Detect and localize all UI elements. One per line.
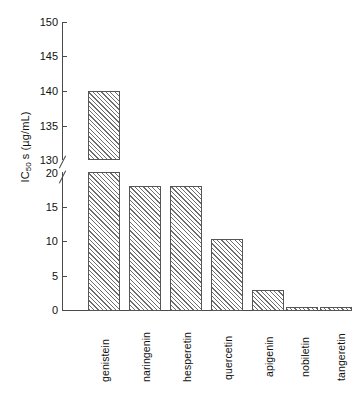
- bar-naringenin: [129, 186, 161, 311]
- y-tick-0: [62, 310, 67, 311]
- bar-tangeretin: [320, 307, 352, 311]
- y-tick-label-0: 0: [26, 305, 58, 316]
- bar-hesperetin: [170, 186, 202, 311]
- x-category-label-hesperetin: hesperetin: [181, 332, 193, 382]
- x-category-label-tangeretin: tangeretin: [335, 333, 347, 381]
- y-tick-label-15: 15: [26, 202, 58, 213]
- y-tick-label-20: 20: [26, 168, 58, 179]
- y-tick-140: [62, 91, 67, 92]
- y-tick-label-150: 150: [26, 17, 58, 28]
- x-category-label-apigenin: apigenin: [263, 336, 275, 377]
- y-tick-135: [62, 126, 67, 127]
- bar-quercetin: [211, 239, 243, 311]
- bar-genistein: [88, 172, 120, 311]
- y-tick-145: [62, 56, 67, 57]
- x-category-label-nobiletin: nobiletin: [299, 337, 311, 377]
- y-tick-5: [62, 276, 67, 277]
- x-category-label-genistein: genistein: [99, 339, 111, 382]
- y-tick-label-135: 135: [26, 121, 58, 132]
- bar-nobiletin: [286, 307, 318, 311]
- y-tick-label-145: 145: [26, 51, 58, 62]
- y-axis-title: IC50 s (µg/mL): [19, 77, 33, 217]
- bar-genistein-upper: [88, 91, 120, 160]
- y-tick-label-10: 10: [26, 236, 58, 247]
- y-tick-label-140: 140: [26, 86, 58, 97]
- y-tick-label-130: 130: [26, 155, 58, 166]
- y-tick-label-5: 5: [26, 271, 58, 282]
- bar-apigenin: [252, 290, 284, 311]
- y-tick-15: [62, 207, 67, 208]
- x-category-label-naringenin: naringenin: [140, 332, 152, 382]
- y-tick-150: [62, 22, 67, 23]
- chart-figure: IC50 s (µg/mL) 150 145 140 135 130 20 15…: [0, 0, 362, 393]
- x-category-label-quercetin: quercetin: [222, 336, 234, 380]
- y-tick-10: [62, 241, 67, 242]
